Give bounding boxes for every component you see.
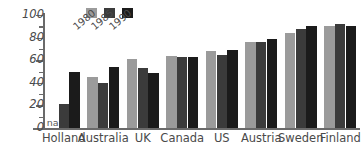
y-axis-label: 40: [4, 77, 44, 89]
y-axis-label: 80: [4, 32, 44, 44]
y-axis-label: 60: [4, 54, 44, 66]
bar-group: [123, 15, 163, 128]
bar: [98, 83, 108, 128]
bar-group: [163, 15, 203, 128]
bar: [227, 50, 237, 128]
bar: [166, 56, 176, 128]
bar: [69, 72, 79, 129]
y-axis-label: 100: [4, 9, 44, 21]
bar: [138, 68, 148, 128]
bar: [285, 33, 295, 128]
bar: [59, 104, 69, 128]
bar: [127, 59, 137, 128]
bar: [346, 26, 356, 128]
bar: [245, 42, 255, 128]
bar: [306, 26, 316, 128]
bar-group: [281, 15, 321, 128]
bar: [256, 42, 266, 128]
x-axis-line: [33, 128, 360, 130]
bar-group: [84, 15, 124, 128]
bar: [177, 57, 187, 128]
plot-area: na: [44, 15, 360, 128]
bar: [109, 67, 119, 128]
bar-group: [202, 15, 242, 128]
y-axis-label: 0: [4, 122, 44, 134]
bar-chart: 020406080100 na HollandAustraliaUKCanada…: [0, 0, 363, 153]
bar: [217, 55, 227, 128]
bar-group: [321, 15, 361, 128]
bar: [335, 24, 345, 128]
bar: [148, 73, 158, 128]
bar: [188, 57, 198, 128]
bar: [206, 51, 216, 128]
bar-group: [242, 15, 282, 128]
bar: [296, 29, 306, 128]
x-axis-label-finland: Finland: [315, 133, 363, 145]
bar: [324, 26, 334, 128]
bar: [267, 39, 277, 128]
y-axis-label: 20: [4, 99, 44, 111]
bar: [87, 77, 97, 128]
bar-na-annotation: na: [47, 118, 59, 128]
